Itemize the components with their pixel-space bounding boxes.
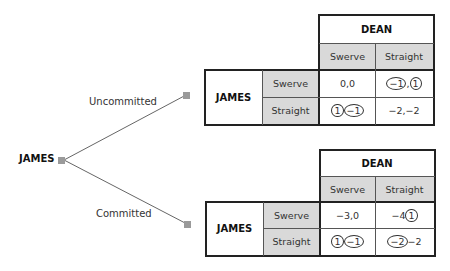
divider <box>375 43 376 125</box>
uncommitted-node <box>183 92 190 99</box>
divider <box>262 97 434 98</box>
root-node <box>58 157 65 164</box>
branch-label-uncommitted: Uncommitted <box>89 96 157 107</box>
divider <box>263 228 435 229</box>
divider <box>263 202 264 256</box>
divider <box>320 176 435 177</box>
branch-label-committed: Committed <box>96 208 152 219</box>
divider <box>319 43 434 44</box>
divider <box>375 176 376 256</box>
committed-node <box>184 221 191 228</box>
root-node-label: JAMES <box>19 153 54 164</box>
table-border-row-block <box>205 201 436 257</box>
